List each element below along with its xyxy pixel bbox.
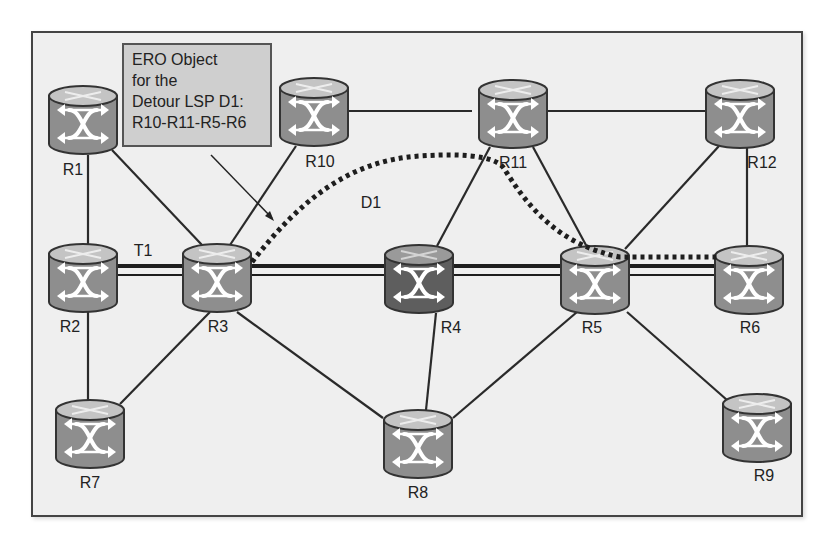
annotation-arrow bbox=[211, 155, 274, 221]
link-r3-r10 bbox=[230, 146, 296, 245]
link-r12-r5 bbox=[625, 146, 719, 249]
ero-line-4: R10-R11-R5-R6 bbox=[132, 112, 262, 133]
router-label-r12: R12 bbox=[747, 154, 776, 172]
router-r1 bbox=[49, 86, 117, 154]
link-r4-r8 bbox=[426, 313, 436, 410]
router-label-r7: R7 bbox=[80, 474, 100, 492]
detour-d1-path bbox=[252, 155, 720, 262]
router-r9 bbox=[723, 394, 791, 462]
router-label-r11: R11 bbox=[499, 154, 527, 172]
network-diagram: ERO Object for the Detour LSP D1: R10-R1… bbox=[0, 0, 833, 540]
router-r11 bbox=[479, 80, 547, 148]
link-r3-r8 bbox=[237, 312, 383, 418]
router-label-r1: R1 bbox=[63, 161, 83, 179]
ero-annotation-box: ERO Object for the Detour LSP D1: R10-R1… bbox=[122, 43, 272, 147]
router-r8 bbox=[384, 410, 452, 478]
link-r1-r3 bbox=[112, 150, 202, 245]
router-label-r9: R9 bbox=[754, 467, 774, 485]
router-r7 bbox=[56, 400, 124, 468]
link-r3-r7 bbox=[120, 312, 210, 404]
router-r12 bbox=[706, 80, 774, 148]
router-label-r3: R3 bbox=[208, 318, 228, 336]
router-label-r8: R8 bbox=[408, 484, 428, 502]
link-r11-r4 bbox=[437, 147, 490, 246]
router-label-r10: R10 bbox=[305, 153, 334, 171]
ero-line-2: for the bbox=[132, 70, 262, 91]
tunnel-label-t1: T1 bbox=[134, 242, 153, 260]
router-label-r6: R6 bbox=[740, 319, 760, 337]
router-r10 bbox=[280, 78, 348, 146]
detour-label-d1: D1 bbox=[361, 194, 381, 212]
router-label-r2: R2 bbox=[60, 318, 80, 336]
link-r5-r9 bbox=[627, 312, 727, 400]
link-r5-r8 bbox=[453, 312, 577, 418]
router-label-r5: R5 bbox=[582, 319, 602, 337]
router-r4 bbox=[385, 245, 453, 313]
ero-line-1: ERO Object bbox=[132, 49, 262, 70]
router-r3 bbox=[183, 244, 251, 312]
router-r6 bbox=[715, 246, 783, 314]
ero-line-3: Detour LSP D1: bbox=[132, 91, 262, 112]
router-r2 bbox=[49, 244, 117, 312]
router-label-r4: R4 bbox=[441, 319, 461, 337]
